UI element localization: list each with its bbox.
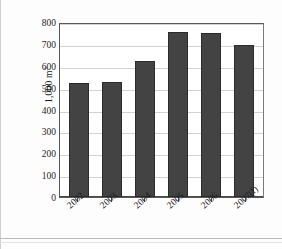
x-axis-tick-labels: 200220032004200520062007(f) <box>59 203 264 247</box>
bar-slot <box>95 24 128 197</box>
scan-edge-left <box>0 0 1 249</box>
y-axis-tick-label: 400 <box>30 106 56 116</box>
y-axis-tick-label: 300 <box>30 127 56 137</box>
bar-slot <box>228 24 261 197</box>
bar-slot <box>62 24 95 197</box>
bar-2002[interactable] <box>69 83 89 197</box>
bar-2003[interactable] <box>102 82 122 197</box>
y-axis-tick-labels: 8007006005004003002001000 <box>30 18 56 202</box>
plot-area <box>59 23 264 198</box>
bar-2005[interactable] <box>168 32 188 197</box>
y-axis-tick-label: 700 <box>30 40 56 50</box>
bar-2006[interactable] <box>201 33 221 197</box>
bar-2004[interactable] <box>135 61 155 197</box>
bar-series <box>60 24 263 197</box>
bar-slot <box>195 24 228 197</box>
y-axis-tick-label: 500 <box>30 84 56 94</box>
y-axis-tick-label: 800 <box>30 18 56 28</box>
chart-figure: 1,000 m3 8007006005004003002001000 20022… <box>0 0 282 249</box>
bar-slot <box>162 24 195 197</box>
y-axis-tick-label: 600 <box>30 62 56 72</box>
y-axis-tick-label: 100 <box>30 171 56 181</box>
bar-slot <box>128 24 161 197</box>
bar-2007(f)[interactable] <box>234 45 254 197</box>
y-axis-tick-label: 200 <box>30 149 56 159</box>
y-axis-tick-label: 0 <box>30 193 56 203</box>
